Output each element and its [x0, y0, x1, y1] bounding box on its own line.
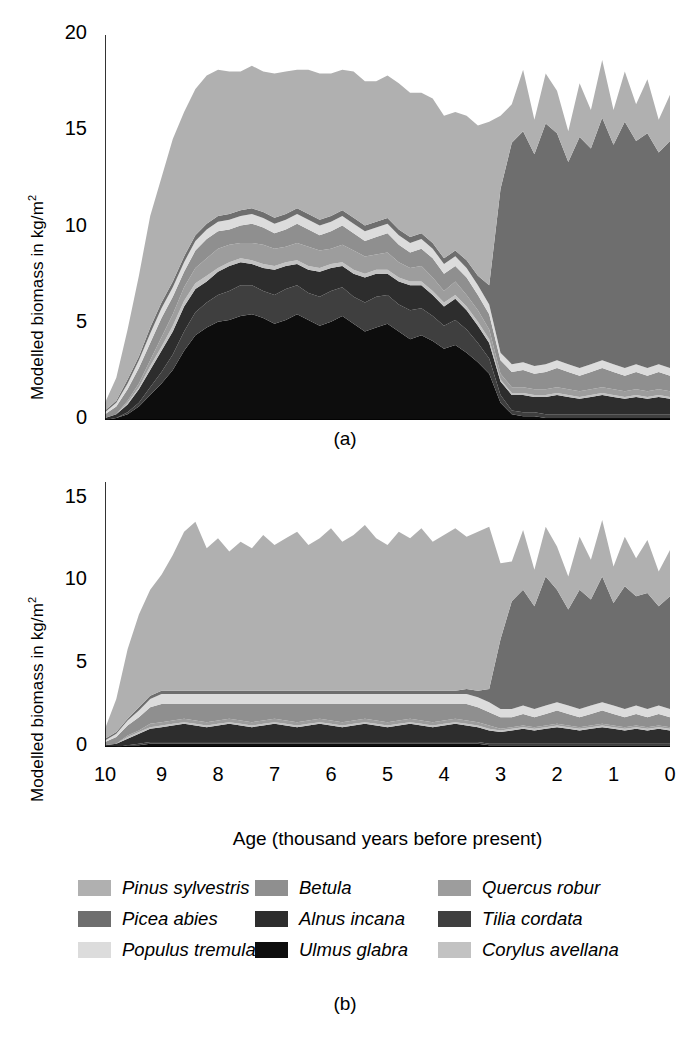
legend-column-1: Pinus sylvestrisPicea abiesPopulus tremu… [78, 872, 256, 965]
legend-swatch [255, 942, 288, 958]
legend-label: Betula [299, 877, 351, 899]
legend-item: Tilia cordata [438, 903, 619, 934]
legend-label: Tilia cordata [482, 908, 583, 930]
figure: Modelled biomass in kg/m2 05101520 (a) M… [0, 0, 691, 1043]
legend-item: Betula [255, 872, 408, 903]
legend-item: Picea abies [78, 903, 256, 934]
panel-a-y-tick-0: 0 [15, 406, 87, 429]
legend-label: Alnus incana [299, 908, 405, 930]
panel-a-tag: (a) [315, 428, 375, 450]
legend-column-3: Quercus roburTilia cordataCorylus avella… [438, 872, 619, 965]
panel-b-y-tick-0: 0 [15, 733, 87, 756]
legend-item: Alnus incana [255, 903, 408, 934]
legend-item: Quercus robur [438, 872, 619, 903]
panel-a-y-tick-15: 15 [15, 117, 87, 140]
legend-item: Ulmus glabra [255, 934, 408, 965]
panel-a-plot-area [105, 35, 670, 420]
legend-swatch [255, 880, 288, 896]
legend-swatch [78, 911, 111, 927]
x-tick-2: 2 [527, 763, 587, 786]
legend: Pinus sylvestrisPicea abiesPopulus tremu… [0, 872, 691, 992]
panel-b-y-tick-15: 15 [15, 485, 87, 508]
legend-item: Populus tremula [78, 934, 256, 965]
panel-a-y-tick-5: 5 [15, 310, 87, 333]
legend-swatch [438, 880, 471, 896]
panel-b-y-axis-label: Modelled biomass in kg/m2 [26, 597, 48, 802]
panel-a: Modelled biomass in kg/m2 05101520 (a) [0, 0, 691, 440]
legend-swatch [78, 880, 111, 896]
legend-label: Corylus avellana [482, 939, 619, 961]
legend-label: Populus tremula [122, 939, 256, 961]
panel-a-y-tick-20: 20 [15, 21, 87, 44]
legend-column-2: BetulaAlnus incanaUlmus glabra [255, 872, 408, 965]
x-tick-10: 10 [75, 763, 135, 786]
x-tick-9: 9 [132, 763, 192, 786]
x-tick-5: 5 [358, 763, 418, 786]
panel-b-plot-area [105, 482, 670, 747]
panel-b-y-tick-5: 5 [15, 650, 87, 673]
legend-swatch [255, 911, 288, 927]
panel-b-y-tick-10: 10 [15, 567, 87, 590]
legend-swatch [438, 911, 471, 927]
panel-b: Modelled biomass in kg/m2 051015 1098765… [0, 452, 691, 852]
panel-a-y-tick-10: 10 [15, 214, 87, 237]
x-tick-7: 7 [245, 763, 305, 786]
x-axis-label: Age (thousand years before present) [95, 828, 680, 850]
x-tick-4: 4 [414, 763, 474, 786]
panel-b-tag: (b) [315, 993, 375, 1015]
legend-swatch [78, 942, 111, 958]
x-tick-6: 6 [301, 763, 361, 786]
x-tick-3: 3 [471, 763, 531, 786]
x-tick-1: 1 [584, 763, 644, 786]
legend-label: Ulmus glabra [299, 939, 408, 961]
legend-item: Pinus sylvestris [78, 872, 256, 903]
x-tick-0: 0 [640, 763, 691, 786]
legend-swatch [438, 942, 471, 958]
legend-item: Corylus avellana [438, 934, 619, 965]
legend-label: Picea abies [122, 908, 218, 930]
legend-label: Pinus sylvestris [122, 877, 249, 899]
x-tick-8: 8 [188, 763, 248, 786]
legend-label: Quercus robur [482, 877, 600, 899]
